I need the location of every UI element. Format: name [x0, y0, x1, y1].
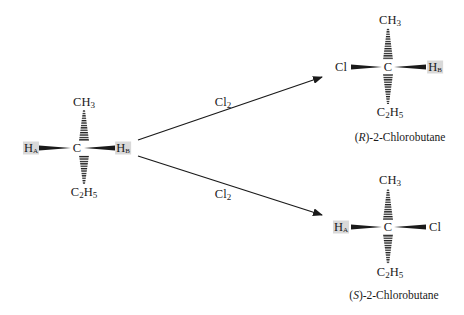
reactant-top-group: CH3	[73, 96, 95, 110]
reagent-subscript: 2	[227, 100, 232, 110]
group-text: CH	[379, 173, 396, 187]
group-subscript: 3	[396, 178, 401, 188]
r-right-hydrogen: HB	[427, 61, 443, 74]
arrow-to-s-product	[138, 156, 322, 215]
reagent-subscript: 2	[227, 192, 232, 202]
reactant-left-hydrogen: HA	[23, 142, 39, 155]
wedge-bond-right	[394, 65, 426, 70]
group-text: H	[390, 265, 399, 279]
group-text: CH	[73, 95, 90, 109]
reagent-text: Cl	[215, 95, 227, 109]
r-center-carbon: C	[384, 61, 392, 74]
wedge-bond-left	[351, 225, 382, 230]
hash-bond-down	[79, 155, 89, 184]
group-subscript: 5	[93, 190, 98, 200]
hash-bond-up	[79, 110, 89, 141]
s-bottom-group: C2H5	[377, 266, 403, 280]
group-subscript: 3	[396, 18, 401, 28]
r-left-chlorine: Cl	[335, 61, 347, 74]
r-bottom-group: C2H5	[377, 106, 403, 120]
s-right-chlorine: Cl	[429, 221, 441, 234]
s-top-group: CH3	[379, 174, 401, 188]
group-subscript: 5	[399, 110, 404, 120]
atom-text: H	[334, 220, 343, 234]
name-suffix: )-2-Chlorobutane	[359, 289, 439, 301]
wedge-bond-left	[39, 146, 71, 151]
wedge-bond-left	[351, 65, 382, 70]
atom-text: H	[24, 141, 33, 155]
atom-subscript: B	[125, 147, 130, 155]
reagent-label-lower: Cl2	[215, 188, 231, 202]
group-text: CH	[379, 13, 396, 27]
group-text: H	[84, 185, 93, 199]
s-product-name: (S)-2-Chlorobutane	[349, 289, 438, 301]
hash-bond-up	[383, 189, 393, 220]
name-suffix: )-2-Chlorobutane	[366, 131, 446, 143]
atom-subscript: A	[33, 147, 38, 155]
wedge-bond-right	[84, 146, 115, 151]
reagent-label-upper: Cl2	[215, 96, 231, 110]
group-subscript: 3	[90, 100, 95, 110]
r-top-group: CH3	[379, 14, 401, 28]
r-product-name: (R)-2-Chlorobutane	[355, 131, 446, 143]
reactant-bottom-group: C2H5	[71, 186, 97, 200]
reactant-right-hydrogen: HB	[115, 142, 131, 155]
s-left-hydrogen: HA	[333, 221, 349, 234]
s-center-carbon: C	[384, 221, 392, 234]
atom-text: H	[428, 60, 437, 74]
reactant-center-carbon: C	[73, 142, 81, 155]
reagent-text: Cl	[215, 187, 227, 201]
wedge-bond-right	[394, 225, 426, 230]
atom-subscript: A	[343, 226, 348, 234]
atom-subscript: B	[437, 66, 442, 74]
atom-text: H	[116, 141, 125, 155]
group-text: H	[390, 105, 399, 119]
group-subscript: 5	[399, 270, 404, 280]
hash-bond-down	[383, 234, 393, 264]
hash-bond-up	[383, 28, 393, 60]
config-letter: R	[358, 131, 365, 143]
hash-bond-down	[383, 74, 393, 104]
